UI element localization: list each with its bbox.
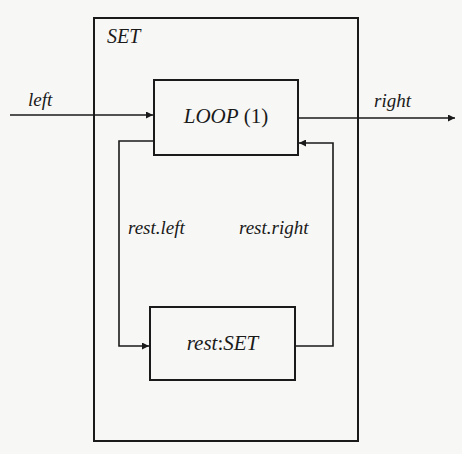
- diagram-canvas: [0, 0, 462, 454]
- rest-left-edge: [119, 141, 154, 346]
- loop-box-label: LOOP (1): [154, 106, 298, 127]
- rest-left-label: rest.left: [128, 218, 185, 237]
- loop-box-name: LOOP: [184, 104, 239, 128]
- rest-set-type: SET: [223, 331, 258, 355]
- rest-set-prefix: rest: [187, 331, 218, 355]
- rest-right-edge: [295, 143, 333, 346]
- rest-set-box-label: rest:SET: [150, 333, 295, 354]
- input-label-left: left: [28, 90, 52, 109]
- outer-set-label: SET: [107, 26, 140, 46]
- rest-right-label: rest.right: [239, 218, 309, 237]
- output-label-right: right: [374, 91, 411, 110]
- loop-box-index: (1): [244, 104, 269, 128]
